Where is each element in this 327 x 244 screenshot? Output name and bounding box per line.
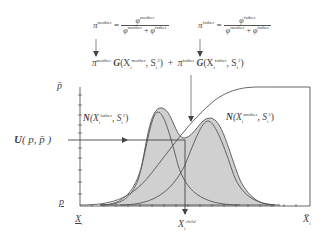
x-max-label: X̄i <box>303 213 311 224</box>
pi-superscript: father <box>203 20 215 25</box>
mother-normal-label: N(Ximother, Si2) <box>226 112 274 122</box>
pi-superscript: mother <box>98 20 112 25</box>
p-max-label: p̄ <box>57 80 62 91</box>
father-normal-label: N(Xifather, Si2) <box>83 113 128 123</box>
pi-mother-equation: πmother = φmother φmother + φfather <box>93 16 169 35</box>
pi-father-equation: πfather = φfather φmother + φfather <box>198 16 271 35</box>
denominator: φmother + φfather <box>121 26 168 35</box>
equals: = <box>114 20 119 30</box>
x-child-label: Xichild <box>178 218 196 229</box>
uniform-label: U( p, p̄ ) <box>14 133 51 145</box>
diagram-canvas <box>0 0 327 244</box>
mixture-expression: πmother G(Ximother, Si2) + πfather G(Xif… <box>92 58 244 68</box>
denominator: φmother + φfather <box>224 26 271 35</box>
fraction: φmother φmother + φfather <box>121 16 168 35</box>
equals: = <box>216 20 221 30</box>
fraction: φfather φmother + φfather <box>224 16 271 35</box>
p-min-label: p <box>59 196 64 207</box>
x-min-label: Xi <box>75 213 83 224</box>
